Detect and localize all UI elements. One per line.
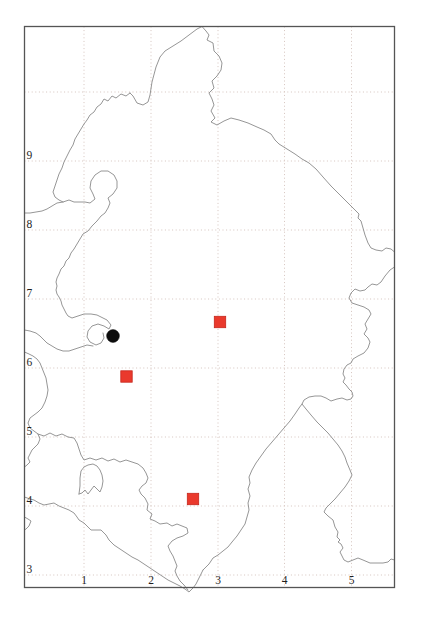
y-axis-tick-label: 7 <box>27 287 33 299</box>
boundary-notched-peninsula <box>79 464 103 494</box>
y-axis-tick-label: 5 <box>27 425 33 437</box>
x-axis-tick-label: 1 <box>81 574 87 586</box>
x-axis-tick-label: 3 <box>215 574 221 586</box>
boundary-west-descent <box>25 352 49 467</box>
y-axis-tick-label: 9 <box>27 149 33 161</box>
y-axis-tick-label: 3 <box>27 563 33 575</box>
map-frame <box>25 27 395 588</box>
distribution-map-page: 123459876543 <box>0 0 422 622</box>
y-axis-tick-label: 6 <box>27 356 33 368</box>
boundary-west-knob <box>25 171 118 345</box>
grid-lines <box>25 27 395 588</box>
x-axis-tick-label: 5 <box>349 574 355 586</box>
boundary-east-coast <box>302 267 395 563</box>
record-marker-square <box>214 316 225 327</box>
record-marker-circle <box>107 330 120 343</box>
y-axis-tick-label: 8 <box>27 218 33 230</box>
x-axis-tick-label: 2 <box>148 574 154 586</box>
axis-tick-labels: 123459876543 <box>27 149 355 587</box>
boundary-south-coast-bill <box>25 497 204 592</box>
record-marker-square <box>121 371 132 382</box>
boundary-harbour-shore <box>38 433 188 590</box>
x-axis-tick-label: 4 <box>282 574 288 586</box>
county-boundary-outline <box>25 27 395 593</box>
boundary-northwest <box>53 93 130 202</box>
record-markers <box>107 316 226 504</box>
y-axis-tick-label: 4 <box>27 494 33 506</box>
boundary-inlet-north <box>25 330 94 351</box>
boundary-frame-fragment <box>25 517 32 530</box>
distribution-map: 123459876543 <box>0 0 422 622</box>
record-marker-square <box>187 493 198 504</box>
boundary-north-east <box>130 27 395 253</box>
